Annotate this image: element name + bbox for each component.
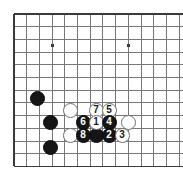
star-point-left: [51, 44, 54, 47]
board-grid: [0, 0, 183, 174]
star-point-right: [127, 44, 130, 47]
go-board-diagram: 75614823: [0, 0, 183, 174]
